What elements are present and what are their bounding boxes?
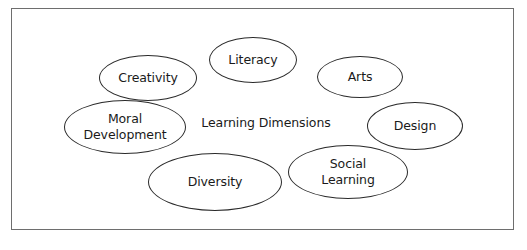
node-label: Diversity <box>188 174 243 190</box>
node-diversity: Diversity <box>148 153 282 211</box>
node-label: Moral Development <box>83 111 166 143</box>
node-label: Literacy <box>228 52 277 68</box>
learning-dimensions-diagram: Creativity Literacy Arts Moral Developme… <box>0 0 527 250</box>
node-label: Social Learning <box>321 156 374 188</box>
node-design: Design <box>367 102 463 150</box>
center-label: Learning Dimensions <box>201 115 330 130</box>
node-label: Arts <box>348 69 373 85</box>
node-arts: Arts <box>317 56 403 98</box>
node-label: Creativity <box>118 70 178 86</box>
node-creativity: Creativity <box>99 55 197 101</box>
node-label: Design <box>394 118 437 134</box>
node-literacy: Literacy <box>209 37 297 83</box>
node-moral-development: Moral Development <box>64 100 186 154</box>
node-social-learning: Social Learning <box>288 145 408 199</box>
